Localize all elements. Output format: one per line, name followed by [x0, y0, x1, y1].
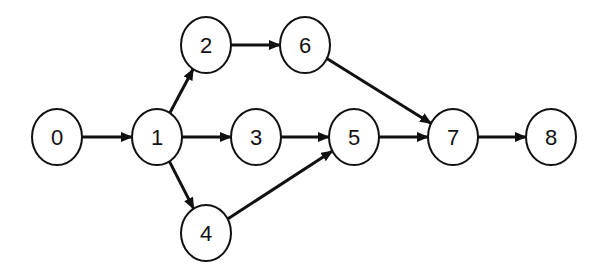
node-8: 8 — [526, 109, 576, 165]
node-6: 6 — [280, 17, 330, 73]
node-label: 1 — [151, 125, 163, 150]
node-label: 0 — [51, 125, 63, 150]
node-label: 3 — [250, 125, 262, 150]
nodes-layer: 012345678 — [32, 17, 576, 261]
node-3: 3 — [231, 109, 281, 165]
edge-1-to-4 — [169, 161, 193, 208]
node-1: 1 — [132, 109, 182, 165]
node-7: 7 — [428, 109, 478, 165]
node-label: 2 — [200, 33, 212, 58]
node-4: 4 — [181, 205, 231, 261]
node-2: 2 — [181, 17, 231, 73]
node-label: 6 — [299, 33, 311, 58]
node-0: 0 — [32, 109, 82, 165]
node-5: 5 — [329, 109, 379, 165]
node-label: 8 — [545, 125, 557, 150]
node-label: 5 — [348, 125, 360, 150]
graph-canvas: 012345678 — [0, 0, 603, 275]
node-label: 7 — [447, 125, 459, 150]
node-label: 4 — [200, 221, 212, 246]
edge-1-to-2 — [170, 69, 193, 113]
